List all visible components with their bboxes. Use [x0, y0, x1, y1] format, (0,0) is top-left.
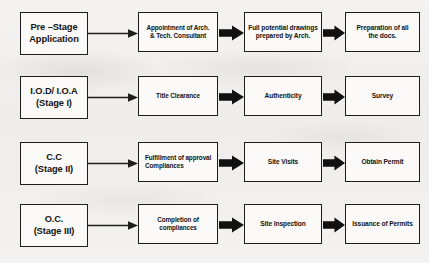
stage-node-row-oc[interactable]: O.C.(Stage III) [20, 204, 88, 247]
step-node-row-pre-stage-3[interactable]: Preparation of allthe docs. [345, 12, 420, 52]
connector-block-arrow-step1-to-step2 [219, 25, 244, 41]
step-node-row-cc-1[interactable]: Fulfillment of approvalCompliances [138, 142, 218, 182]
step-node-row-oc-2[interactable]: Site Inspection [244, 204, 322, 244]
step-node-label: Title Clearance [156, 92, 200, 100]
connector-block-arrow-step2-to-step3 [323, 155, 345, 171]
step-node-row-oc-1[interactable]: Completion ofcompliances [138, 204, 218, 244]
flow-row: I.O.D/ I.O.A(Stage I)Title ClearanceAuth… [0, 76, 429, 120]
step-node-row-cc-2[interactable]: Site Visits [244, 142, 322, 182]
step-node-label: Appointment of Arch.& Tech. Consultant [146, 24, 209, 40]
flow-row: C.C(Stage II)Fulfillment of approvalComp… [0, 142, 429, 186]
connector-block-arrow-step2-to-step3 [323, 217, 345, 233]
step-node-label: Preparation of allthe docs. [356, 24, 408, 41]
connector-block-arrow-step1-to-step2 [219, 89, 244, 105]
stage-node-row-pre-stage[interactable]: Pre –StageApplication [20, 12, 88, 55]
step-node-label: Site Inspection [260, 220, 305, 228]
stage-node-row-iod-ioa[interactable]: I.O.D/ I.O.A(Stage I) [20, 76, 88, 119]
step-node-label: Obtain Permit [362, 158, 404, 166]
step-node-row-iod-ioa-2[interactable]: Authenticity [244, 76, 322, 116]
connector-block-arrow-step2-to-step3 [323, 89, 345, 105]
stage-node-label: O.C.(Stage III) [34, 214, 75, 238]
stage-node-label: C.C(Stage II) [35, 152, 73, 176]
connector-block-arrow-step2-to-step3 [323, 25, 345, 41]
step-node-label: Authenticity [265, 92, 302, 100]
step-node-row-iod-ioa-3[interactable]: Survey [345, 76, 420, 116]
connector-arrow-stage-to-step1 [88, 158, 138, 169]
flow-row: O.C.(Stage III)Completion ofcompliancesS… [0, 204, 429, 248]
stage-node-label: I.O.D/ I.O.A(Stage I) [30, 86, 77, 110]
step-node-label: Site Visits [268, 158, 298, 166]
step-node-label: Full potential drawingsprepared by Arch. [248, 24, 318, 41]
connector-arrow-stage-to-step1 [88, 92, 138, 103]
connector-arrow-stage-to-step1 [88, 28, 138, 39]
step-node-label: Fulfillment of approvalCompliances [145, 154, 211, 170]
connector-arrow-stage-to-step1 [88, 220, 138, 231]
stage-node-label: Pre –StageApplication [29, 22, 79, 46]
step-node-row-pre-stage-2[interactable]: Full potential drawingsprepared by Arch. [244, 12, 322, 52]
approval-stage-flowchart: Pre –StageApplicationAppointment of Arch… [0, 0, 429, 263]
step-node-label: Issuance of Permits [352, 220, 412, 228]
connector-block-arrow-step1-to-step2 [219, 217, 244, 233]
connector-block-arrow-step1-to-step2 [219, 155, 244, 171]
step-node-row-pre-stage-1[interactable]: Appointment of Arch.& Tech. Consultant [138, 12, 218, 52]
step-node-label: Completion ofcompliances [157, 216, 199, 232]
step-node-row-cc-3[interactable]: Obtain Permit [345, 142, 420, 182]
flow-row: Pre –StageApplicationAppointment of Arch… [0, 12, 429, 56]
step-node-row-iod-ioa-1[interactable]: Title Clearance [138, 76, 218, 116]
step-node-row-oc-3[interactable]: Issuance of Permits [345, 204, 420, 244]
stage-node-row-cc[interactable]: C.C(Stage II) [20, 142, 88, 185]
step-node-label: Survey [372, 92, 393, 100]
